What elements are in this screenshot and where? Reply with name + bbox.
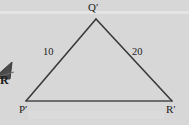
triangle-diagram [0, 0, 189, 125]
side-length-label-qr: 20 [132, 47, 143, 58]
side-length-label-pq: 10 [43, 47, 54, 58]
triangle-side-pq [26, 19, 96, 101]
vertex-label-r: R′ [166, 104, 176, 115]
vertex-label-p: P′ [19, 104, 28, 115]
vertex-label-q: Q′ [88, 2, 98, 13]
triangle-side-qr [96, 19, 172, 101]
adjacent-figure-vertex-label-r: R [0, 74, 9, 86]
figure-canvas: Q′ P′ R′ 10 20 R [0, 0, 189, 125]
